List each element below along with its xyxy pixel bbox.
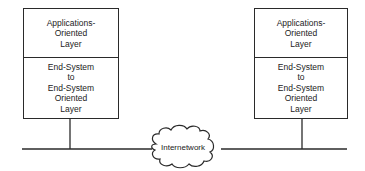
right-host-stack: Applications- Oriented Layer End-System … xyxy=(254,8,348,119)
applications-layer: Applications- Oriented Layer xyxy=(24,9,118,58)
internetwork-label: Internetwork xyxy=(153,143,213,152)
applications-layer: Applications- Oriented Layer xyxy=(255,9,347,58)
end-system-layer: End-System to End-System Oriented Layer xyxy=(255,58,347,118)
layer-label: Applications- Oriented Layer xyxy=(47,18,96,50)
left-host-stack: Applications- Oriented Layer End-System … xyxy=(23,8,119,119)
layer-label: End-System to End-System Oriented Layer xyxy=(48,62,94,115)
layer-label: Applications- Oriented Layer xyxy=(277,18,326,50)
end-system-layer: End-System to End-System Oriented Layer xyxy=(24,58,118,118)
layer-label: End-System to End-System Oriented Layer xyxy=(278,62,324,115)
